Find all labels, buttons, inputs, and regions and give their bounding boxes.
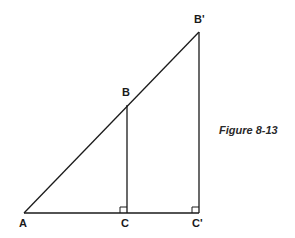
point-label-c: C xyxy=(121,218,129,229)
point-label-c-prime: C' xyxy=(192,218,203,229)
right-angle-marker-c xyxy=(120,207,127,213)
point-label-b: B xyxy=(122,87,130,98)
point-label-a: A xyxy=(19,218,27,229)
similar-triangles-diagram xyxy=(0,0,295,238)
point-label-b-prime: B' xyxy=(194,14,205,25)
figure-caption: Figure 8-13 xyxy=(219,125,278,136)
right-angle-marker-c-prime xyxy=(192,207,199,213)
segment-hypotenuse-ab-prime xyxy=(24,32,199,213)
